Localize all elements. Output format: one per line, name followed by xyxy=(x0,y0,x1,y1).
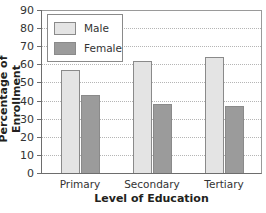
legend-label-female: Female xyxy=(84,42,122,54)
legend: Male Female xyxy=(47,14,123,62)
y-tick-label: 70 xyxy=(14,41,34,52)
y-tick-mark xyxy=(37,119,42,120)
y-tick-label: 80 xyxy=(14,23,34,34)
y-tick-mark xyxy=(37,10,42,11)
y-tick-mark xyxy=(37,46,42,47)
y-tick-label: 60 xyxy=(14,59,34,70)
y-tick-label: 10 xyxy=(14,150,34,161)
legend-swatch-male xyxy=(54,22,76,35)
bar-male-primary xyxy=(61,70,80,173)
y-tick-mark xyxy=(37,28,42,29)
y-tick-mark xyxy=(37,101,42,102)
x-axis-title: Level of Education xyxy=(41,192,262,205)
bar-female-primary xyxy=(81,95,100,173)
y-tick-mark xyxy=(37,82,42,83)
y-tick-mark xyxy=(37,173,42,174)
y-tick-label: 30 xyxy=(14,114,34,125)
legend-label-male: Male xyxy=(84,22,109,34)
y-tick-mark xyxy=(37,155,42,156)
y-tick-label: 90 xyxy=(14,5,34,16)
y-tick-label: 20 xyxy=(14,132,34,143)
y-tick-mark xyxy=(37,137,42,138)
x-tick-label: Secondary xyxy=(117,178,187,190)
y-tick-label: 40 xyxy=(14,96,34,107)
x-tick-label: Tertiary xyxy=(189,178,259,190)
y-tick-label: 50 xyxy=(14,77,34,88)
bar-female-tertiary xyxy=(225,106,244,173)
y-tick-label: 0 xyxy=(14,168,34,179)
legend-swatch-female xyxy=(54,42,76,55)
bar-male-secondary xyxy=(133,61,152,173)
legend-item-female: Female xyxy=(54,41,122,55)
x-tick-label: Primary xyxy=(45,178,115,190)
bar-female-secondary xyxy=(153,104,172,173)
bar-male-tertiary xyxy=(205,57,224,173)
y-tick-mark xyxy=(37,64,42,65)
legend-item-male: Male xyxy=(54,21,109,35)
